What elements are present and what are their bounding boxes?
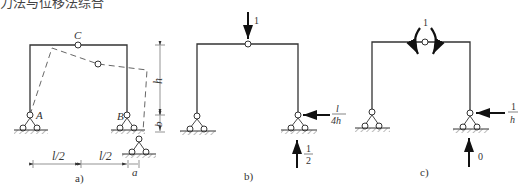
panel-c: 1 1 h 0 c) [355,17,518,179]
v-reaction-num: 1 [306,143,311,154]
h-reaction-den: 4h [331,115,341,126]
label-l-half-right: l/2 [99,149,112,163]
h-reaction-num-c: 1 [511,101,516,112]
frame-b [197,44,298,115]
label-a: A [35,109,43,121]
load-label: 1 [254,15,259,26]
panel-c-caption: c) [420,166,429,179]
moment-label: 1 [423,17,428,28]
label-b: b [152,121,164,127]
panel-b-caption: b) [244,170,254,183]
hinge-c [75,42,81,48]
label-b-support: B [117,110,124,122]
moment-arrow-right [431,28,436,54]
label-a-shift: a [132,166,138,178]
v-reaction-den: 2 [306,155,311,166]
frame-c [372,42,470,113]
displaced-shape [30,48,147,132]
support-b-left [180,113,216,135]
panel-a-caption: a) [75,172,84,185]
support-c-left [355,109,390,132]
panel-a: h b l/2 l/2 a C A B a) [14,29,165,185]
dimension-horizontal [33,160,139,168]
support-a [14,112,48,134]
dimension-vertical [155,45,165,132]
label-l-half-left: l/2 [52,149,65,163]
moment-arrow-left [415,28,420,54]
panel-b: 1 l 4h 1 2 b) [180,12,346,183]
v-reaction-c: 0 [478,151,483,162]
diagram-canvas: h b l/2 l/2 a C A B a) 1 [0,0,529,192]
hinge-b [245,41,251,47]
frame-a [30,45,127,115]
hinge-c-displaced [95,61,101,67]
label-h: h [151,78,165,84]
label-c: C [74,29,82,41]
support-b-displaced [122,136,156,158]
h-reaction-den-c: h [510,114,515,125]
hinge-c-panel [422,39,428,45]
h-reaction-num: l [336,103,339,114]
